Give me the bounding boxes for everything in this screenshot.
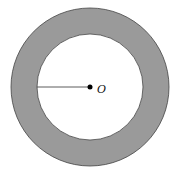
center-point bbox=[88, 85, 93, 90]
center-label: O bbox=[97, 83, 106, 96]
annulus-diagram: O bbox=[0, 0, 180, 173]
